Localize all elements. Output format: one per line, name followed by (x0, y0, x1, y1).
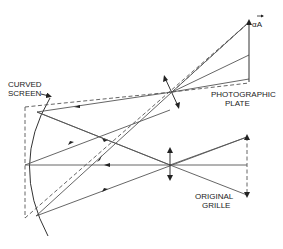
grille-arrow-top (244, 134, 250, 140)
ray-grille-top (170, 137, 247, 165)
optical-diagram: CURVED SCREEN PHOTOGRAPHIC PLATE ORIGINA… (0, 0, 283, 249)
photographic-plate-label-1: PHOTOGRAPHIC (211, 90, 276, 99)
ray-grille-bottom (170, 165, 247, 195)
original-grille-label-2: GRILLE (202, 201, 230, 210)
photographic-plate-label-2: PLATE (225, 99, 250, 108)
dashed-ray-top (25, 92, 172, 107)
ray-top (37, 92, 172, 112)
ray-screen-mid-arrow (104, 163, 110, 167)
ray-bottom-arrow (102, 188, 108, 192)
curved-screen-label-2: SCREEN (8, 89, 42, 98)
lower-lens-arrow-bottom (167, 175, 173, 181)
grille-arrow-bottom (244, 192, 250, 198)
curved-screen-pointer (41, 94, 49, 96)
magnified-image-vector-arrow (261, 15, 264, 18)
lower-lens-arrow-top (167, 147, 173, 153)
curved-screen (29, 98, 50, 236)
ray-plate-mid (172, 55, 249, 92)
ray-grille-from-top (37, 112, 170, 165)
original-grille-label-1: ORIGINAL (195, 192, 234, 201)
upper-lens-arrow-bottom (175, 102, 180, 109)
curved-screen-label-1: CURVED (8, 80, 42, 89)
dashed-diagonal (25, 24, 247, 218)
ray-diagonal-arrow (97, 155, 102, 162)
ray-diagonal (36, 92, 172, 216)
ray-upper-arrow (68, 141, 74, 145)
magnified-image-label: αA (252, 20, 263, 29)
upper-lens-arrow-top (163, 75, 168, 82)
